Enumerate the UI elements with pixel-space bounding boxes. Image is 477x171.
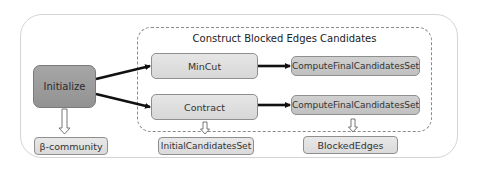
hollow-arrow-initialize-beta [59,109,70,134]
contract-node: Contract [151,94,258,120]
compute-final-candidates-node-1: ComputeFinalCandidatesSet [291,56,420,76]
mincut-node: MinCut [151,53,258,79]
hollow-arrow-compute-blocked [349,119,358,132]
initial-candidates-set-output: InitialCandidatesSet [158,137,254,155]
hollow-arrow-contract-initialset [201,122,210,134]
arrow-initialize-mincut [96,66,150,79]
blocked-edges-output: BlockedEdges [303,136,398,154]
compute-final-candidates-node-2: ComputeFinalCandidatesSet [291,95,420,115]
beta-community-output: β-community [34,137,108,155]
initialize-node: Initialize [33,65,96,108]
arrow-initialize-contract [96,94,150,107]
